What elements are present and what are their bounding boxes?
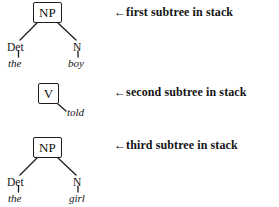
edge-np3-n bbox=[58, 158, 76, 175]
edge-v-told bbox=[58, 104, 66, 111]
node-box-v-second: V bbox=[38, 83, 59, 104]
figure-canvas: NP Det the N boy ←first subtree in stack… bbox=[0, 0, 279, 207]
word-label-told-second: told bbox=[67, 107, 84, 118]
annotation-first-subtree-text: first subtree in stack bbox=[126, 5, 233, 19]
annotation-first-subtree: ←first subtree in stack bbox=[114, 6, 233, 18]
left-arrow-icon: ← bbox=[114, 5, 126, 19]
category-label-n-third: N bbox=[73, 177, 81, 189]
node-box-np-third: NP bbox=[33, 137, 62, 158]
annotation-third-subtree: ←third subtree in stack bbox=[114, 139, 238, 151]
category-label-det-third: Det bbox=[7, 177, 24, 189]
category-label-n-first: N bbox=[73, 42, 81, 54]
annotation-second-subtree: ←second subtree in stack bbox=[114, 86, 247, 98]
edge-np1-n bbox=[58, 23, 76, 40]
edge-np3-det bbox=[20, 158, 37, 175]
word-label-boy-first: boy bbox=[68, 58, 84, 69]
node-box-np-first: NP bbox=[33, 2, 62, 23]
annotation-third-subtree-text: third subtree in stack bbox=[126, 138, 238, 152]
category-label-det-first: Det bbox=[7, 42, 24, 54]
word-label-girl-third: girl bbox=[69, 193, 85, 204]
annotation-second-subtree-text: second subtree in stack bbox=[126, 85, 246, 99]
word-label-the-first: the bbox=[8, 58, 21, 69]
left-arrow-icon: ← bbox=[114, 138, 126, 152]
edge-np1-det bbox=[20, 23, 37, 40]
left-arrow-icon: ← bbox=[114, 85, 126, 99]
word-label-the-third: the bbox=[8, 193, 21, 204]
